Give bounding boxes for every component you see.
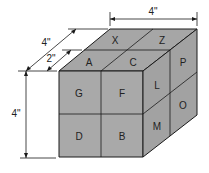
label-p: P [180, 57, 187, 68]
label-g: G [75, 88, 83, 99]
depth-arrow-bottom [26, 66, 31, 71]
label-l: L [154, 80, 160, 91]
label-m: M [153, 121, 161, 132]
label-o: O [179, 100, 187, 111]
depth-arrow-top [71, 29, 76, 34]
label-f: F [119, 88, 125, 99]
width-arrow-left [110, 17, 115, 21]
width-dim-label: 4" [148, 6, 158, 17]
label-c: C [129, 57, 136, 68]
width-arrow-right [192, 17, 197, 21]
depth-half-dim-label: 2" [46, 53, 56, 64]
cube-diagram: X Z A C G F D B P L O M 4" 4" 2" 4" [0, 0, 209, 173]
label-z: Z [159, 35, 165, 46]
height-dim-label: 4" [11, 108, 21, 119]
label-a: A [86, 57, 93, 68]
height-arrow-bottom [24, 153, 28, 158]
label-d: D [75, 131, 82, 142]
label-x: X [112, 35, 119, 46]
label-b: B [119, 131, 126, 142]
height-arrow-top [24, 71, 28, 76]
depth-dim-label: 4" [41, 37, 51, 48]
